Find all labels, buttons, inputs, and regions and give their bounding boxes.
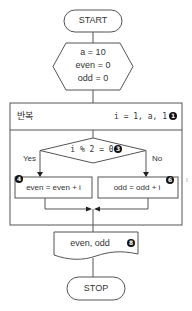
loop-range: i = 1, a, 1 — [114, 113, 164, 121]
merge-arrow-right — [94, 207, 100, 212]
init-line-3: odd = 0 — [60, 74, 126, 83]
marker-8: 8 — [127, 239, 135, 247]
stop-label: STOP — [67, 284, 125, 293]
marker-6: 6 — [166, 176, 174, 184]
marker-1: 1 — [169, 112, 177, 120]
no-arrow-head — [143, 172, 149, 177]
marker-3: 3 — [114, 145, 122, 153]
init-line-2: even = 0 — [60, 61, 126, 70]
loop-title: 반복 — [17, 112, 33, 121]
marker-4: 4 — [15, 175, 23, 183]
loop-box-shape — [10, 103, 182, 225]
even-step-text: even = even + i — [15, 184, 92, 192]
odd-step-text: odd = odd + i — [98, 184, 176, 192]
yes-label: Yes — [23, 155, 36, 163]
yes-arrow-head — [37, 172, 43, 177]
start-label: START — [64, 16, 122, 25]
merge-arrow-left — [86, 207, 92, 212]
output-text: even, odd — [60, 239, 120, 248]
init-line-1: a = 10 — [60, 48, 126, 57]
no-label: No — [152, 155, 162, 163]
condition-expr: i % 2 = 0 — [62, 146, 122, 154]
